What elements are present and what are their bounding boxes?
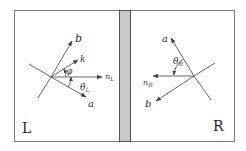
right-label-a: a — [162, 33, 168, 44]
right-panel-label: R — [213, 118, 224, 134]
left-label-a: a — [88, 98, 94, 109]
barrier-bar — [120, 11, 131, 142]
right-label-b: b — [145, 98, 151, 109]
diagram-canvas: b k φ nL θL a L a θR nR b R — [0, 0, 246, 151]
left-label-phi: φ — [66, 66, 73, 76]
left-label-k: k — [80, 54, 85, 64]
left-label-b: b — [75, 32, 82, 45]
left-panel-label: L — [22, 120, 31, 136]
